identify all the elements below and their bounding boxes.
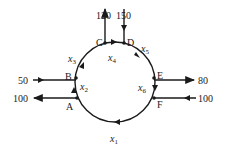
- flow-in-d-arrow: [121, 25, 127, 31]
- flow-out-c-value: 120: [96, 10, 111, 21]
- node-e-label: E: [157, 70, 163, 81]
- x2-label: x2: [79, 81, 88, 94]
- node-c-label: C: [96, 37, 103, 48]
- traffic-network-diagram: C D B A E F 120 150 50 100 80 100 x4 x5 …: [0, 0, 225, 153]
- x5-direction-arrow: [134, 52, 140, 58]
- flow-in-d-value: 150: [116, 10, 131, 21]
- x6-label: x6: [137, 82, 146, 95]
- flow-in-b-value: 50: [18, 75, 28, 86]
- flow-in-f-arrow: [184, 95, 190, 101]
- flow-out-e-value: 80: [198, 75, 208, 86]
- x4-label: x4: [107, 52, 116, 65]
- node-b-dot: [74, 76, 78, 80]
- node-a-label: A: [66, 101, 74, 112]
- node-e-dot: [152, 76, 156, 80]
- flow-in-b-arrow: [38, 77, 44, 83]
- node-b-label: B: [65, 71, 72, 82]
- x6-direction-arrow: [152, 85, 158, 91]
- x3-label: x3: [67, 53, 76, 66]
- node-d-label: D: [127, 37, 134, 48]
- flow-out-a-value: 100: [13, 93, 28, 104]
- node-a-dot: [75, 96, 79, 100]
- node-f-label: F: [157, 99, 163, 110]
- x5-label: x5: [140, 43, 149, 56]
- flow-in-f-value: 100: [198, 93, 213, 104]
- circular-road: [75, 42, 155, 122]
- node-d-dot: [122, 41, 126, 45]
- x1-direction-arrow: [114, 119, 120, 125]
- x4-direction-arrow: [111, 39, 117, 45]
- node-c-dot: [103, 41, 107, 45]
- node-f-dot: [152, 96, 156, 100]
- x1-label: x1: [109, 133, 118, 146]
